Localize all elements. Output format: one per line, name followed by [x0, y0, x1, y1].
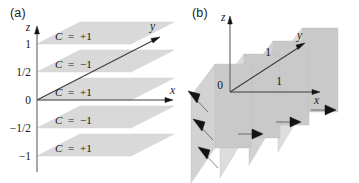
panel-a-ztick-minus1: −1 [19, 150, 31, 162]
chern-symbol-5: C [55, 142, 63, 154]
panel-a-chern-label-zhalf: C = −1 [55, 58, 92, 70]
panel-b-y-axis-label: y [296, 29, 303, 42]
panel-a-label: (a) [10, 6, 26, 20]
panel-a-ztick-1: 1 [25, 38, 31, 50]
chern-symbol-4: C [55, 114, 63, 126]
chern-eq-3: = [68, 86, 74, 98]
panel-a-z-axis-label: z [25, 21, 31, 33]
svg-text:C = +1: C = +1 [55, 142, 92, 154]
chern-symbol-2: C [55, 58, 63, 70]
chern-eq-2: = [68, 58, 74, 70]
chern-symbol-1: C [55, 30, 63, 42]
panel-b-xtick-1: 1 [276, 75, 282, 87]
chern-eq-4: = [68, 114, 74, 126]
chern-eq-5: = [68, 142, 74, 154]
chern-value-5: +1 [80, 142, 92, 154]
panel-a-chern-label-z1: C = +1 [55, 30, 92, 42]
panel-a-x-arrowhead [165, 98, 173, 103]
panel-a-y-arrowhead [151, 37, 160, 43]
panel-a-chern-label-zminushalf: C = −1 [55, 114, 92, 126]
panel-b: (b) [180, 0, 359, 183]
panel-b-label: (b) [192, 6, 208, 20]
figure-root: (a) [0, 0, 359, 183]
chern-value-3: +1 [80, 86, 92, 98]
panel-a: (a) [0, 0, 180, 183]
panel-a-z-arrowhead [35, 26, 40, 34]
panel-a-y-axis-label: y [149, 20, 156, 33]
panel-a-ztick-half: 1/2 [16, 66, 31, 78]
panel-a-chern-label-z0: C = +1 [55, 86, 92, 98]
chern-value-2: −1 [80, 58, 92, 70]
panel-a-ztick-minushalf: −1/2 [10, 122, 31, 134]
chern-symbol-3: C [55, 86, 63, 98]
panel-a-diagram: z x y 1 1/2 0 −1/2 −1 C = +1 C = − [0, 0, 180, 183]
chern-value-4: −1 [80, 114, 92, 126]
panel-b-z-arrowhead [228, 16, 233, 24]
svg-text:C = −1: C = −1 [55, 114, 92, 126]
chern-value-1: +1 [80, 30, 92, 42]
svg-text:C = +1: C = +1 [55, 30, 92, 42]
panel-b-origin-label: 0 [217, 79, 223, 91]
chern-eq-1: = [68, 30, 74, 42]
svg-text:C = +1: C = +1 [55, 86, 92, 98]
panel-b-ytick-1: 1 [265, 46, 271, 58]
panel-a-x-axis-label: x [169, 84, 176, 96]
svg-text:C = −1: C = −1 [55, 58, 92, 70]
panel-b-x-axis-label: x [313, 94, 320, 106]
panel-a-chern-label-zminus1: C = +1 [55, 142, 92, 154]
panel-b-z-axis-label: z [220, 11, 226, 23]
panel-a-ztick-0: 0 [25, 94, 31, 106]
panel-b-diagram: z x y 0 1 1 [180, 0, 359, 183]
